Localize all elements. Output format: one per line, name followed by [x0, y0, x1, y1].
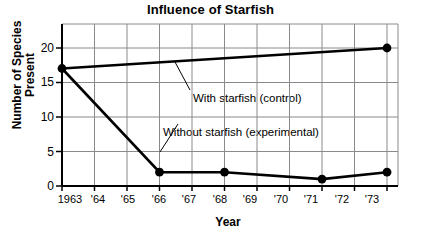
- series-without-starfish-experimental: [62, 69, 391, 184]
- data-point: [383, 168, 392, 177]
- data-point: [220, 168, 229, 177]
- data-point: [383, 44, 392, 53]
- annotation-leader-lines: [160, 62, 190, 152]
- plot-area: [0, 0, 421, 237]
- grid-lines: [62, 24, 398, 186]
- data-point: [318, 175, 327, 184]
- data-point: [155, 168, 164, 177]
- chart-container: Influence of Starfish Number of Species …: [0, 0, 421, 237]
